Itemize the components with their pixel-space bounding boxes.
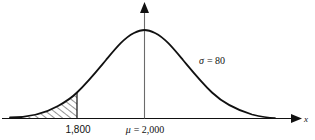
sigma-symbol: σ [199, 55, 205, 66]
mean-label: μ= 2,000 [125, 124, 165, 135]
plot-canvas: σ= 80 1,800 μ= 2,000 x [0, 0, 315, 140]
normal-distribution-figure: σ= 80 1,800 μ= 2,000 x [0, 0, 315, 140]
y-axis-arrow-icon [140, 2, 149, 13]
mu-symbol: μ [125, 124, 131, 135]
sigma-value: = 80 [207, 55, 225, 66]
x-axis-arrow-icon [291, 114, 302, 123]
mean-value: = 2,000 [134, 124, 165, 135]
x-axis-label: x [303, 114, 308, 124]
left-tail-hatched-area [10, 93, 77, 119]
normal-curve [10, 30, 275, 118]
tick-label-1800: 1,800 [65, 124, 90, 135]
sigma-annotation: σ= 80 [199, 55, 225, 66]
